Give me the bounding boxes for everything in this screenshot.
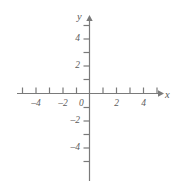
x-tick-label-neg2: –2: [58, 99, 68, 109]
x-axis-label: x: [165, 90, 170, 101]
coordinate-plane-figure: –4 –2 2 4 0 4 2 –2 –4 x y: [0, 0, 179, 188]
x-tick-label-neg4: –4: [31, 99, 41, 109]
y-tick-label-neg2: –2: [62, 116, 80, 126]
y-tick-label-pos4: 4: [68, 34, 80, 44]
y-tick-label-pos2: 2: [68, 61, 80, 71]
y-axis-arrowhead: [86, 15, 92, 21]
x-axis-arrowhead: [158, 90, 164, 96]
origin-label: 0: [79, 99, 84, 109]
x-tick-label-pos4: 4: [141, 99, 146, 109]
y-axis-label: y: [77, 12, 82, 23]
axes-graphic: [0, 0, 179, 188]
x-tick-label-pos2: 2: [114, 99, 119, 109]
y-tick-label-neg4: –4: [62, 143, 80, 153]
